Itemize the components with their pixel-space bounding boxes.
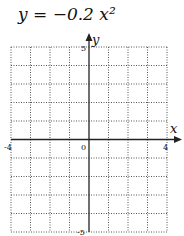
coordinate-grid: y x -4 0 4 5 -5 xyxy=(0,0,184,236)
x-tick-min: -4 xyxy=(4,143,12,152)
x-axis-label: x xyxy=(170,121,178,136)
y-axis-label: y xyxy=(91,32,100,47)
x-tick-origin: 0 xyxy=(81,143,86,152)
y-tick-min: -5 xyxy=(77,228,85,236)
x-axis-arrow-icon xyxy=(174,136,182,143)
x-tick-max: 4 xyxy=(163,143,168,152)
y-tick-max: 5 xyxy=(81,44,86,53)
